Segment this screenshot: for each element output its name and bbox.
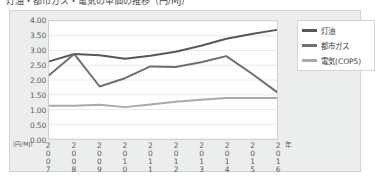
legend-label: 電気(COP5)	[321, 55, 361, 66]
x-tick-label: 2010	[121, 141, 129, 173]
chart-legend: 灯油都市ガス電気(COP5)	[297, 20, 375, 71]
plot-area	[48, 20, 278, 140]
page-title: 灯油・都市ガス・電気の単価の推移（円/MJ）	[6, 0, 190, 7]
x-tick-label: 2007	[44, 141, 52, 173]
y-tick-label: 2.00	[30, 76, 46, 85]
series-line-1	[49, 54, 277, 92]
x-tick-label: 2013	[198, 141, 206, 173]
line-chart-svg	[49, 21, 277, 139]
x-tick-label: 2011	[146, 141, 154, 173]
x-axis-unit-label: 年	[282, 141, 292, 148]
y-axis-unit-label: (円/MJ)	[13, 139, 33, 148]
legend-swatch-icon	[302, 29, 317, 32]
x-tick-label: 2012	[172, 141, 180, 173]
y-tick-label: 1.00	[30, 106, 46, 115]
legend-label: 灯油	[321, 25, 335, 36]
legend-item: 電気(COP5)	[302, 56, 370, 65]
x-tick-label: 2014	[223, 141, 231, 173]
x-tick-label: 2016	[274, 141, 282, 173]
x-tick-label: 2015	[249, 141, 257, 173]
x-tick-label: 2009	[95, 141, 103, 173]
chart-title-cropped: 灯油・都市ガス・電気の単価の推移（円/MJ）	[0, 0, 370, 9]
chart-card: 0.000.501.001.502.002.503.003.504.00 (円/…	[9, 10, 361, 172]
series-line-0	[49, 30, 277, 62]
y-tick-label: 1.50	[30, 91, 46, 100]
legend-item: 灯油	[302, 26, 370, 35]
legend-swatch-icon	[302, 59, 317, 62]
legend-item: 都市ガス	[302, 41, 370, 50]
y-tick-label: 3.00	[30, 46, 46, 55]
x-tick-label: 2008	[70, 141, 78, 173]
x-axis-labels: 2007200820092010201120122013201420152016	[48, 141, 278, 173]
y-tick-label: 0.50	[30, 121, 46, 130]
series-line-2	[49, 98, 277, 107]
y-tick-label: 4.00	[30, 16, 46, 25]
y-tick-label: 2.50	[30, 61, 46, 70]
legend-swatch-icon	[302, 44, 317, 47]
y-tick-label: 3.50	[30, 31, 46, 40]
y-axis-labels: 0.000.501.001.502.002.503.003.504.00	[10, 20, 46, 140]
legend-label: 都市ガス	[321, 40, 349, 51]
